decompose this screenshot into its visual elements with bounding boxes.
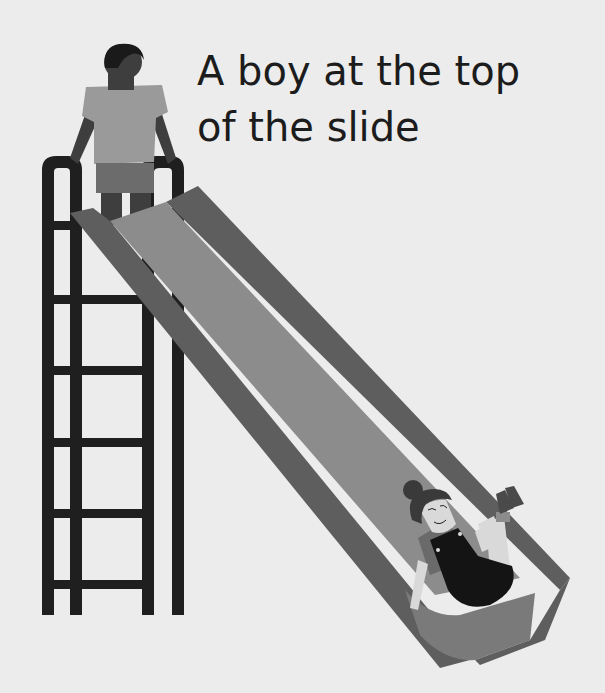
girl-sock xyxy=(496,512,510,522)
caption-line-2: of the slide xyxy=(197,99,520,155)
boy-shorts xyxy=(96,163,154,193)
girl-overalls-button xyxy=(458,532,462,536)
girl xyxy=(403,480,524,610)
ladder-rung xyxy=(54,438,154,447)
ladder-rung xyxy=(54,366,154,375)
caption: A boy at the top of the slide xyxy=(197,43,520,155)
boy-shirt xyxy=(82,85,168,164)
girl-overalls-button xyxy=(436,548,440,552)
ladder-rung xyxy=(54,509,154,518)
boy xyxy=(70,44,176,225)
caption-line-1: A boy at the top xyxy=(197,43,520,99)
girl-hair-bun xyxy=(403,480,423,500)
ladder-rung xyxy=(54,221,70,230)
ladder-rung xyxy=(54,580,154,589)
